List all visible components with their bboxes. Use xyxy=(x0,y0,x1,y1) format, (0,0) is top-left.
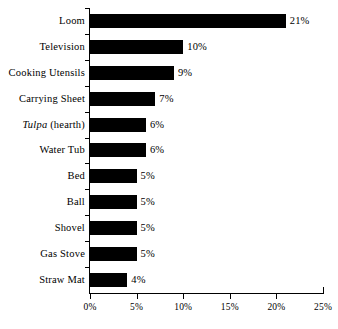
x-axis-tick-label: 10% xyxy=(174,303,192,313)
x-axis-tick-label: 25% xyxy=(314,303,332,313)
x-axis-tick xyxy=(137,293,138,299)
x-axis-tick-label: 5% xyxy=(130,303,143,313)
bar-chart: Loom21%Television10%Cooking Utensils9%Ca… xyxy=(0,0,338,329)
x-axis-tick xyxy=(276,293,277,299)
x-axis-tick-label: 15% xyxy=(221,303,239,313)
x-axis-ticks: 0%5%10%15%20%25% xyxy=(0,0,338,329)
x-axis-tick xyxy=(183,293,184,299)
x-axis-tick-label: 20% xyxy=(267,303,285,313)
x-axis-tick xyxy=(230,293,231,299)
x-axis-tick-label: 0% xyxy=(83,303,96,313)
x-axis-tick xyxy=(90,293,91,299)
